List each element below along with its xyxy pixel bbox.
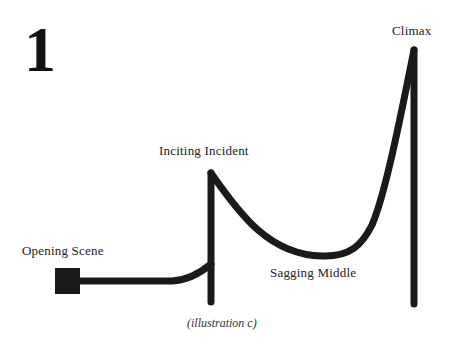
inciting-incident-label: Inciting Incident [159,144,249,158]
figure-caption: (illustration c) [187,316,257,331]
story-arc-diagram [0,0,455,345]
sagging-middle-label: Sagging Middle [270,266,356,280]
opening-scene-label: Opening Scene [22,244,104,258]
opening-path [78,264,211,281]
climax-label: Climax [392,24,431,38]
